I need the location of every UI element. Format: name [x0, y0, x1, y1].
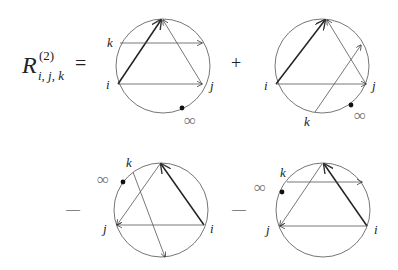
chord-diagram-2: i j k ∞ [264, 19, 376, 129]
infinity-point-marker [121, 180, 126, 185]
r-symbol: R [21, 52, 37, 78]
chord-i-to-apex [161, 164, 204, 225]
infinity-label: ∞ [184, 111, 196, 130]
label-j: j [370, 78, 376, 93]
infinity-point-marker [280, 190, 285, 195]
label-j: j [101, 221, 107, 236]
chord-i-to-apex [276, 20, 325, 84]
label-i: i [106, 77, 110, 92]
chord-diagram-formula: R (2) i, j, k = + — — k i j ∞ i j k ∞ [0, 0, 398, 270]
chord-j-to-apex [327, 20, 366, 84]
label-k: k [304, 114, 310, 129]
label-i: i [374, 222, 378, 237]
label-i: i [264, 78, 268, 93]
label-k: k [107, 35, 113, 50]
chord-diagram-4: k j i ∞ [254, 163, 378, 257]
chord-apex-to-j [280, 164, 322, 226]
label-k: k [280, 165, 286, 180]
chord-i-to-apex [118, 20, 161, 84]
chord-i-to-apex [324, 164, 367, 226]
plus-operator: + [231, 53, 241, 73]
infinity-label: ∞ [254, 178, 266, 197]
infinity-label: ∞ [97, 170, 109, 189]
label-j: j [208, 78, 214, 93]
r-subscript: i, j, k [38, 68, 64, 83]
chord-k [133, 172, 165, 257]
infinity-point-marker [180, 106, 185, 111]
formula-lhs: R (2) i, j, k = [21, 48, 86, 83]
label-i: i [210, 221, 214, 236]
minus-operator-1: — [65, 202, 81, 217]
chord-j-to-apex [163, 20, 202, 84]
infinity-point-marker [349, 103, 354, 108]
chord-diagram-1: k i j ∞ [106, 19, 214, 130]
equals-sign: = [75, 52, 86, 74]
minus-operator-2: — [231, 202, 247, 217]
r-superscript: (2) [39, 48, 54, 63]
chord-k [315, 45, 361, 112]
chord-apex-to-j [117, 164, 160, 225]
chord-diagram-3: k j i ∞ [97, 155, 214, 257]
label-j: j [264, 222, 270, 237]
infinity-label: ∞ [354, 106, 366, 125]
label-k: k [126, 155, 132, 170]
